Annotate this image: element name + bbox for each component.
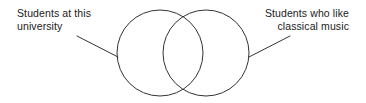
venn-diagram-canvas: Students at this university Students who…: [0, 0, 366, 103]
leader-line-right: [249, 36, 290, 57]
set-label-right: Students who like classical music: [265, 7, 349, 32]
leader-line-left: [77, 36, 118, 57]
set-circle-left: [117, 10, 203, 96]
set-circle-right: [163, 10, 249, 96]
set-label-left: Students at this university: [17, 7, 91, 32]
